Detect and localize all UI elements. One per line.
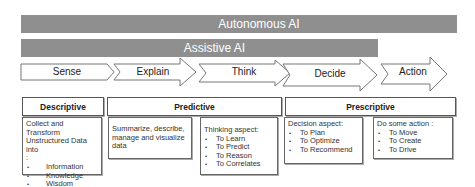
list-item: To Correlates [204,160,274,169]
explain-description-box: Summarize, describe, manage and visualiz… [108,117,192,159]
sense-list: Information Knowledge Wisdom [26,163,98,187]
decide-description-box: Decision aspect: To Plan To Optimize To … [284,117,363,164]
explain-text: Summarize, describe, manage and visualiz… [112,125,188,151]
stage-think: Think [205,66,283,77]
stage-action: Action [388,66,438,77]
decide-list: To Plan To Optimize To Recommend [288,129,359,155]
list-item: To Recommend [288,146,359,155]
sense-heading: Collect and Transform Unstructured Data … [26,120,98,154]
action-list: To Move To Create To Drive [377,129,449,155]
sense-description-box: Collect and Transform Unstructured Data … [22,117,102,175]
category-predictive: Predictive [107,97,282,116]
action-description-box: Do some action : To Move To Create To Dr… [373,117,453,159]
list-item: To Drive [377,146,449,155]
list-item: Wisdom [26,180,98,187]
category-prescriptive: Prescriptive [285,97,456,116]
stage-decide: Decide [290,68,370,79]
stage-explain: Explain [118,66,188,77]
stage-arrows [0,0,475,100]
think-list: To Learn To Predict To Reason To Correla… [204,135,274,169]
think-description-box: Thinking aspect: To Learn To Predict To … [200,117,278,175]
stage-sense: Sense [21,66,113,77]
category-descriptive: Descriptive [22,97,104,116]
